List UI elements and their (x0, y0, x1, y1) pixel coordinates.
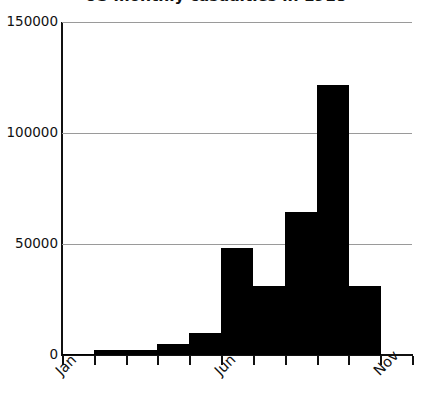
x-axis-tick (253, 356, 255, 365)
y-axis-tick-label: 50000 (2, 237, 58, 251)
bar (157, 344, 189, 355)
bar (94, 350, 126, 355)
bar (221, 248, 253, 355)
x-axis-tick (285, 356, 287, 365)
bar (348, 286, 380, 355)
bar (126, 350, 158, 355)
gridline (62, 355, 412, 356)
bar (253, 286, 285, 355)
x-axis-tick (412, 356, 414, 365)
plot-area (62, 22, 412, 355)
bar (189, 333, 221, 355)
y-axis-tick-labels: 150000100000500000 (0, 0, 58, 413)
x-axis-tick (317, 356, 319, 365)
bar (285, 212, 317, 355)
x-axis-tick (189, 356, 191, 365)
bar (317, 85, 349, 355)
chart-title: US monthly casualties in 1918 (0, 0, 431, 5)
x-axis-tick (126, 356, 128, 365)
y-axis-tick-label: 100000 (2, 126, 58, 140)
y-axis-tick-label: 150000 (2, 15, 58, 29)
chart-container: US monthly casualties in 1918 1500001000… (0, 0, 431, 413)
x-axis-tick (94, 356, 96, 365)
y-axis-tick-label: 0 (2, 348, 58, 362)
gridline (62, 133, 412, 134)
x-axis-tick (157, 356, 159, 365)
x-axis-tick (348, 356, 350, 365)
gridline (62, 22, 412, 23)
gridline (62, 244, 412, 245)
